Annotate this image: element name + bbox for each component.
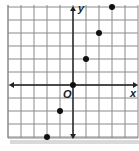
data-point xyxy=(96,30,102,36)
x-axis-left-arrow-icon xyxy=(9,82,14,88)
coordinate-plane: y x O xyxy=(0,0,139,151)
data-point xyxy=(109,4,115,10)
grid-shadow xyxy=(10,140,139,144)
y-axis-label: y xyxy=(77,2,85,14)
data-point xyxy=(44,134,50,140)
data-point xyxy=(83,56,89,62)
data-point xyxy=(57,108,63,114)
x-axis-label: x xyxy=(129,87,137,99)
origin-label: O xyxy=(63,88,72,100)
